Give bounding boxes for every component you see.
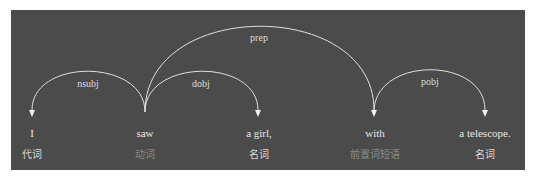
token-pos-tag: 代词 [22,146,42,161]
token-word: a girl, [246,127,272,139]
dep-label-dobj: dobj [192,78,210,89]
token-word: I [30,127,34,139]
token-word: a telescope. [459,127,510,139]
dep-label-pobj: pobj [421,76,439,87]
token-pos-tag: 动词 [135,146,155,161]
token-pos-tag: 名词 [475,146,495,161]
arrowhead-icon [255,110,261,117]
arrowhead-icon [482,110,488,117]
token-word: saw [136,127,153,139]
arrowhead-icon [371,110,377,117]
token-pos-tag: 前置词短语 [350,146,400,161]
arrowhead-icon [29,110,35,117]
token-word: with [365,127,385,139]
dep-label-prep: prep [250,32,268,43]
token-pos-tag: 名词 [249,146,269,161]
dep-label-nsubj: nsubj [77,78,99,89]
